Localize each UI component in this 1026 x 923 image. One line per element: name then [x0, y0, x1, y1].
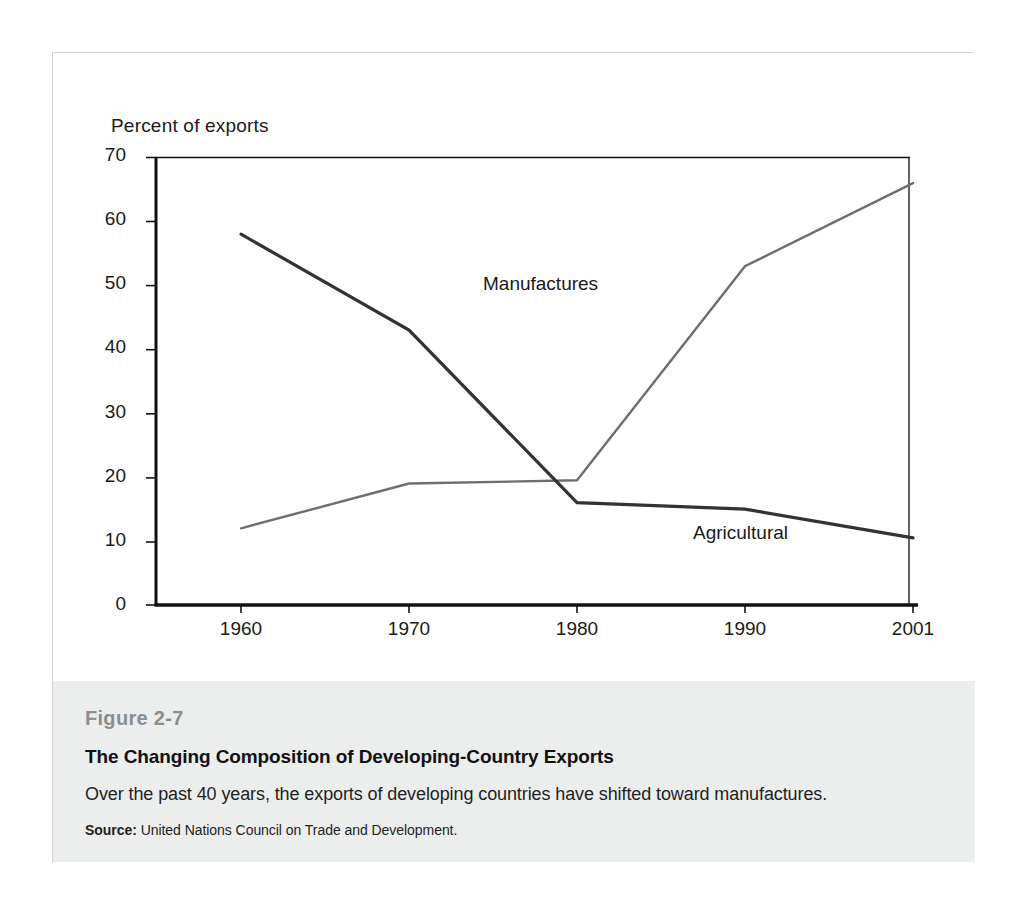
- y-tick-label-40: 40: [86, 336, 126, 358]
- y-tick-label-30: 30: [86, 401, 126, 423]
- x-tick-label-1980: 1980: [537, 618, 617, 640]
- figure-title: The Changing Composition of Developing-C…: [85, 746, 951, 768]
- y-tick-label-50: 50: [86, 272, 126, 294]
- caption-band: Figure 2-7 The Changing Composition of D…: [53, 681, 975, 862]
- series-label-agricultural: Agricultural: [693, 522, 788, 544]
- y-tick-label-0: 0: [86, 593, 126, 615]
- plot-area: 70 60 50 40 30 20 10 0 1960 1970 1980 19…: [138, 156, 908, 608]
- figure-card: Percent of exports 70 60 50 40 30 20 10 …: [52, 52, 974, 862]
- x-tick-label-1960: 1960: [201, 618, 281, 640]
- axis-frame: [155, 157, 919, 606]
- y-tick-label-70: 70: [86, 144, 126, 166]
- source-text: United Nations Council on Trade and Deve…: [141, 822, 458, 838]
- figure-root: Percent of exports 70 60 50 40 30 20 10 …: [0, 0, 1026, 923]
- y-tick-label-10: 10: [86, 529, 126, 551]
- figure-description: Over the past 40 years, the exports of d…: [85, 784, 951, 805]
- series-label-manufactures: Manufactures: [483, 273, 598, 295]
- y-axis-title: Percent of exports: [111, 115, 269, 137]
- series-line-manufactures: [241, 183, 913, 528]
- x-tick-label-1990: 1990: [705, 618, 785, 640]
- y-tick-label-20: 20: [86, 465, 126, 487]
- x-tick-label-1970: 1970: [369, 618, 449, 640]
- y-tick-label-60: 60: [86, 208, 126, 230]
- chart-svg: [138, 156, 928, 626]
- figure-number: Figure 2-7: [85, 707, 951, 730]
- x-tick-label-2001: 2001: [873, 618, 953, 640]
- caption-inner: Figure 2-7 The Changing Composition of D…: [85, 681, 951, 838]
- figure-source: Source: United Nations Council on Trade …: [85, 822, 951, 838]
- source-label: Source:: [85, 822, 137, 838]
- chart-panel: Percent of exports 70 60 50 40 30 20 10 …: [53, 53, 975, 681]
